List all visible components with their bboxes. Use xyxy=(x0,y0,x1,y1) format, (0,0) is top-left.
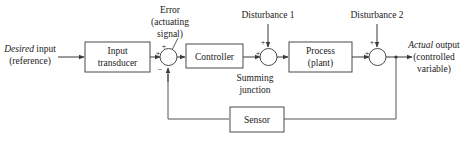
label-desired-input-rest: input xyxy=(34,44,56,54)
label-actual-output-line3: variable) xyxy=(417,64,451,75)
label-disturbance-2: Disturbance 2 xyxy=(350,10,403,20)
label-desired-input-line2: (reference) xyxy=(9,56,51,67)
summing-junction-3: + + xyxy=(365,38,386,66)
label-error-line1: Error xyxy=(160,5,181,15)
label-summing-junction-line1: Summing xyxy=(237,73,274,83)
label-summing-junction: Summing junction xyxy=(237,73,274,95)
summing-junction-1-circle xyxy=(160,49,177,66)
label-actual-output: Actual output (controlled variable) xyxy=(407,40,460,75)
summing-junction-2-circle xyxy=(260,49,277,66)
label-actual-output-line1: Actual output xyxy=(407,40,460,50)
block-input-transducer-label-line2: transducer xyxy=(98,58,138,68)
label-desired-input-emphasis: Desired xyxy=(3,44,34,54)
block-sensor: Sensor xyxy=(230,107,284,132)
summing-junction-1-top-sign: + xyxy=(162,42,167,51)
summing-junction-2-top-sign: + xyxy=(261,38,266,47)
label-error: Error (actuating signal) xyxy=(151,5,189,40)
feedback-control-block-diagram: Input transducer Controller Process (pla… xyxy=(0,0,470,143)
summing-junction-3-circle xyxy=(369,49,386,66)
block-controller: Controller xyxy=(186,44,243,68)
block-sensor-label: Sensor xyxy=(244,115,271,125)
label-summing-junction-line2: junction xyxy=(238,85,270,95)
label-desired-input: Desired input (reference) xyxy=(3,44,56,67)
wire-sensor-to-sum1 xyxy=(168,74,229,119)
summing-junction-3-top-sign: + xyxy=(370,38,375,47)
summing-junction-2-left-sign: + xyxy=(256,49,261,58)
summing-junction-1-bottom-sign: − xyxy=(158,65,163,74)
summing-junction-3-left-sign: + xyxy=(365,49,370,58)
label-actual-output-emphasis: Actual xyxy=(407,40,433,50)
junction-dot-output-tap xyxy=(394,55,397,58)
block-controller-label: Controller xyxy=(195,52,235,62)
label-disturbance-1: Disturbance 1 xyxy=(241,10,294,20)
summing-junction-1-left-sign: + xyxy=(156,49,161,58)
block-diagram-container: Input transducer Controller Process (pla… xyxy=(0,0,470,143)
label-actual-output-line2: (controlled xyxy=(413,52,455,63)
summing-junction-2: + + xyxy=(256,38,277,66)
block-process-label-line1: Process xyxy=(306,46,335,56)
label-error-line3: signal) xyxy=(157,29,183,40)
label-actual-output-rest: output xyxy=(433,40,460,50)
block-input-transducer: Input transducer xyxy=(85,42,150,72)
block-process: Process (plant) xyxy=(289,42,352,72)
label-desired-input-line1: Desired input xyxy=(3,44,56,54)
block-process-label-line2: (plant) xyxy=(308,58,333,69)
label-error-line2: (actuating xyxy=(151,17,189,28)
block-input-transducer-label-line1: Input xyxy=(107,46,127,56)
